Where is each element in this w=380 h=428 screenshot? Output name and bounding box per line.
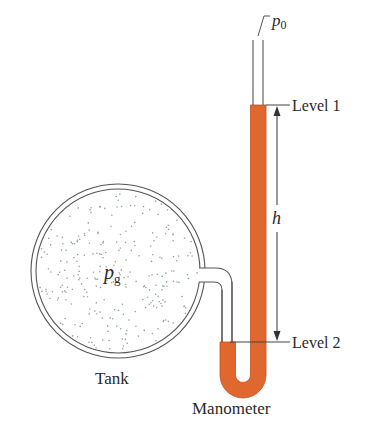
h-label: h xyxy=(272,208,281,228)
level-2-label: Level 2 xyxy=(292,334,340,351)
p0-label: p0 xyxy=(271,11,287,32)
p0-leader-line xyxy=(258,16,270,36)
manometer-label: Manometer xyxy=(192,399,271,418)
manometer-liquid xyxy=(220,105,266,398)
connector-pipe xyxy=(198,268,232,342)
manometer-diagram: p0 Level 1 Level 2 h pg Tank Manometer xyxy=(0,0,380,428)
level-1-label: Level 1 xyxy=(292,97,340,114)
tank-label: Tank xyxy=(95,369,129,388)
